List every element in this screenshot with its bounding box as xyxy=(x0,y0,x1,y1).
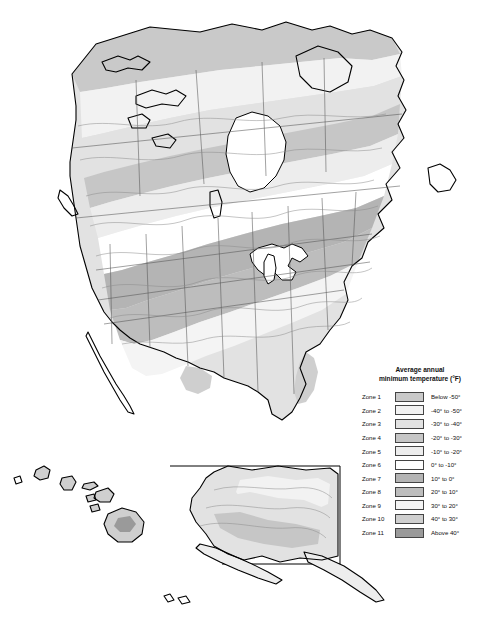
legend-zone-label: Zone 11 xyxy=(362,529,395,536)
map-legend: Average annual minimum temperature (°F) … xyxy=(362,366,478,540)
legend-zone-label: Zone 2 xyxy=(362,407,395,414)
legend-color-swatch xyxy=(395,446,424,456)
mainland-north-america xyxy=(58,22,456,420)
legend-row: Zone 3-30° to -40° xyxy=(362,417,478,430)
legend-color-swatch xyxy=(395,405,424,415)
legend-range-label: 40° to 30° xyxy=(424,515,458,522)
legend-row: Zone 2-40° to -50° xyxy=(362,404,478,417)
legend-title-line2: minimum temperature (°F) xyxy=(379,375,461,382)
legend-color-swatch xyxy=(395,419,424,429)
legend-row: Zone 1Below -50° xyxy=(362,390,478,403)
legend-range-label: 10° to 0° xyxy=(424,475,455,482)
legend-color-swatch xyxy=(395,514,424,524)
legend-zone-label: Zone 5 xyxy=(362,448,395,455)
legend-range-label: -40° to -50° xyxy=(424,407,462,414)
legend-row: Zone 11Above 40° xyxy=(362,526,478,539)
legend-row: Zone 820° to 10° xyxy=(362,485,478,498)
legend-row: Zone 4-20° to -30° xyxy=(362,431,478,444)
legend-title: Average annual minimum temperature (°F) xyxy=(362,366,474,383)
legend-range-label: 20° to 10° xyxy=(424,488,458,495)
legend-color-swatch xyxy=(395,487,424,497)
legend-zone-label: Zone 9 xyxy=(362,502,395,509)
legend-zone-label: Zone 3 xyxy=(362,420,395,427)
legend-rows: Zone 1Below -50°Zone 2-40° to -50°Zone 3… xyxy=(362,390,478,539)
lake-michigan xyxy=(264,254,276,284)
legend-row: Zone 60° to -10° xyxy=(362,458,478,471)
legend-color-swatch xyxy=(395,433,424,443)
legend-range-label: Below -50° xyxy=(424,393,461,400)
alaska-inset xyxy=(164,466,384,604)
legend-zone-label: Zone 1 xyxy=(362,393,395,400)
legend-row: Zone 5-10° to -20° xyxy=(362,445,478,458)
legend-row: Zone 1040° to 30° xyxy=(362,512,478,525)
legend-zone-label: Zone 4 xyxy=(362,434,395,441)
legend-zone-label: Zone 10 xyxy=(362,515,395,522)
legend-range-label: -20° to -30° xyxy=(424,434,462,441)
legend-color-swatch xyxy=(395,392,424,402)
legend-zone-label: Zone 7 xyxy=(362,475,395,482)
legend-color-swatch xyxy=(395,460,424,470)
hawaii-inset xyxy=(14,466,144,542)
legend-range-label: Above 40° xyxy=(424,529,459,536)
legend-row: Zone 710° to 0° xyxy=(362,472,478,485)
legend-zone-label: Zone 6 xyxy=(362,461,395,468)
aleutian-islets xyxy=(164,594,190,604)
legend-color-swatch xyxy=(395,500,424,510)
legend-color-swatch xyxy=(395,528,424,538)
legend-range-label: -10° to -20° xyxy=(424,448,462,455)
legend-range-label: -30° to -40° xyxy=(424,420,462,427)
legend-color-swatch xyxy=(395,473,424,483)
legend-title-line1: Average annual xyxy=(396,366,445,373)
legend-zone-label: Zone 8 xyxy=(362,488,395,495)
legend-range-label: 30° to 20° xyxy=(424,502,458,509)
hawaii-niihau xyxy=(14,476,22,484)
newfoundland xyxy=(428,164,456,192)
legend-row: Zone 930° to 20° xyxy=(362,499,478,512)
legend-range-label: 0° to -10° xyxy=(424,461,457,468)
